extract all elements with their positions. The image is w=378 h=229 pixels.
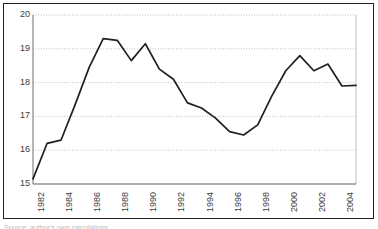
x-tick-label: 1990 [149,192,158,212]
caption-sliver: Source: author's own calculations [4,224,304,229]
x-tick-label: 1994 [206,192,215,212]
x-tick-label: 1984 [65,192,74,212]
x-axis-tick-labels: 1982198419861988199019921994199619982000… [0,0,378,229]
x-tick-label: 2004 [346,192,355,212]
x-tick-label: 1982 [37,192,46,212]
x-tick-label: 1986 [93,192,102,212]
x-tick-label: 1992 [177,192,186,212]
x-tick-label: 2002 [318,192,327,212]
x-tick-label: 1988 [121,192,130,212]
x-tick-label: 1996 [234,192,243,212]
x-tick-label: 1998 [262,192,271,212]
chart-figure: 201918171615 198219841986198819901992199… [0,0,378,229]
x-tick-label: 2000 [290,192,299,212]
